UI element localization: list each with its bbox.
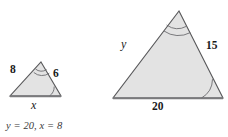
small-triangle-right-side-label: 6: [53, 68, 59, 80]
figure-page: 8 6 x y 15 20 y = 20, x = 8: [0, 0, 228, 137]
answer-text: y = 20, x = 8: [6, 120, 62, 131]
large-triangle-left-side-label: y: [121, 38, 126, 50]
large-triangle-base-label: 20: [152, 101, 164, 113]
small-triangle-left-side-label: 8: [10, 64, 16, 76]
large-triangle-group: [113, 11, 223, 98]
small-triangle-base-label: x: [31, 99, 36, 111]
triangles-figure: [0, 0, 228, 137]
large-triangle-shape: [113, 11, 223, 98]
large-triangle-right-side-label: 15: [206, 40, 218, 52]
